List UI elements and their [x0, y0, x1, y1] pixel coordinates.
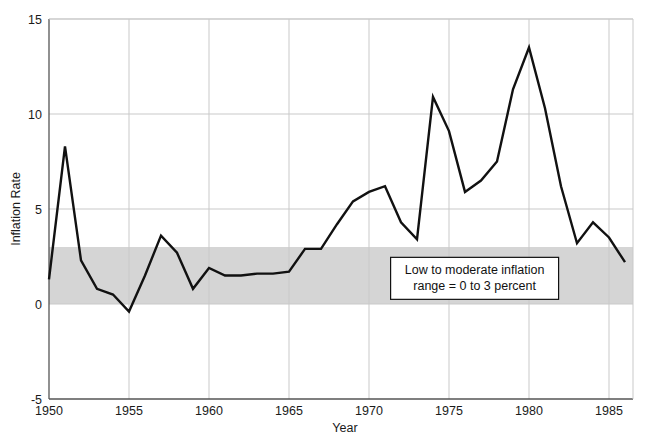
inflation-rate-chart: -5051015 1950195519601965197019751980198…	[0, 0, 650, 439]
x-tick-label: 1975	[435, 404, 463, 418]
annotation-callout: Low to moderate inflation range = 0 to 3…	[391, 257, 559, 299]
y-tick-label: 15	[28, 13, 42, 27]
x-tick-label: 1955	[115, 404, 143, 418]
chart-canvas: -5051015 1950195519601965197019751980198…	[0, 0, 650, 439]
x-tick-label: 1985	[595, 404, 623, 418]
y-tick-label: 0	[35, 298, 42, 312]
x-axis-title: Year	[332, 421, 357, 435]
x-tick-label: 1950	[35, 404, 63, 418]
chart-background	[0, 0, 650, 439]
annotation-line-1: Low to moderate inflation	[405, 263, 545, 277]
y-tick-label: 5	[35, 203, 42, 217]
x-tick-label: 1980	[515, 404, 543, 418]
y-axis-title: Inflation Rate	[9, 172, 23, 246]
y-tick-label: 10	[28, 108, 42, 122]
x-tick-label: 1960	[195, 404, 223, 418]
annotation-line-2: range = 0 to 3 percent	[413, 279, 536, 293]
x-tick-label: 1970	[355, 404, 383, 418]
x-tick-label: 1965	[275, 404, 303, 418]
